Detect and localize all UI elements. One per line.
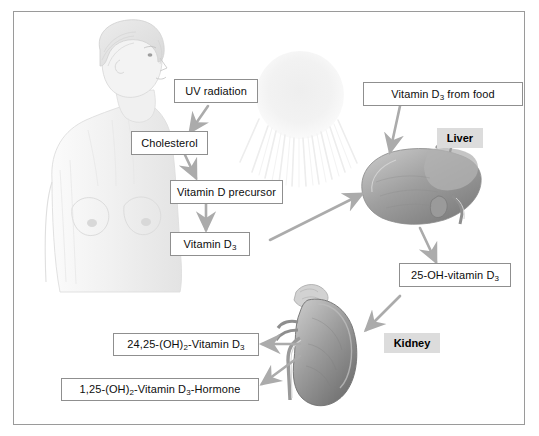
vitamin-d-metabolism-figure: UV radiation Cholesterol Vitamin D precu… [0,0,539,436]
organ-badge-liver: Liver [437,128,483,148]
label-25-oh-vitamin-d3: 25-OH-vitamin D3 [399,263,511,287]
organ-badge-liver-text: Liver [447,132,473,144]
label-uv-radiation-text: UV radiation [185,86,247,97]
label-cholesterol-text: Cholesterol [141,138,198,149]
label-vitamin-d3: Vitamin D3 [170,232,250,256]
figure-border [13,11,525,425]
label-vitamin-d-precursor-text: Vitamin D precursor [177,187,276,198]
label-vitamin-d3-text: Vitamin D3 [184,239,237,250]
organ-badge-kidney: Kidney [384,333,440,353]
organ-badge-kidney-text: Kidney [394,337,431,349]
label-1-25-oh2-vitamin-d3-hormone: 1,25-(OH)2-Vitamin D3-Hormone [61,378,259,401]
label-25-oh-vitamin-d3-text: 25-OH-vitamin D3 [411,270,499,281]
label-1-25-oh2-vitamin-d3-hormone-text: 1,25-(OH)2-Vitamin D3-Hormone [80,384,241,395]
label-24-25-oh2-vitamin-d3: 24,25-(OH)2-Vitamin D3 [113,333,259,356]
label-24-25-oh2-vitamin-d3-text: 24,25-(OH)2-Vitamin D3 [127,339,244,350]
label-vitamin-d3-from-food: Vitamin D3 from food [363,82,523,106]
label-vitamin-d3-from-food-text: Vitamin D3 from food [391,89,494,100]
label-vitamin-d-precursor: Vitamin D precursor [170,180,283,204]
label-uv-radiation: UV radiation [174,79,258,103]
label-cholesterol: Cholesterol [131,131,208,155]
